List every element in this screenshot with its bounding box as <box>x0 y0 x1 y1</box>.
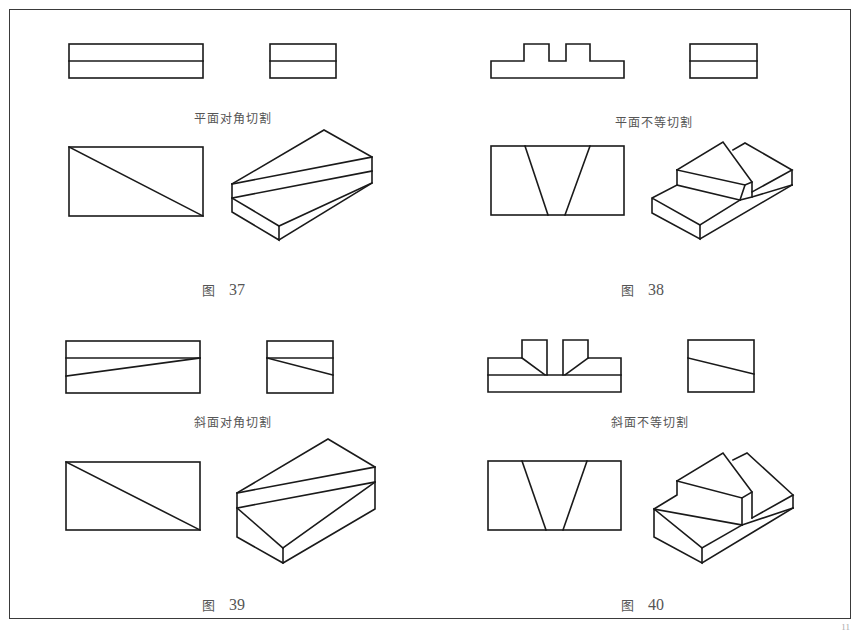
iso-slope-edge <box>237 508 283 548</box>
iso-left-step <box>677 453 752 518</box>
figure-40 <box>488 340 793 563</box>
fig38-section-label: 平面不等切割 <box>615 113 693 130</box>
iso-cut-edge-lower <box>237 482 375 508</box>
fig39-front-view <box>66 341 200 393</box>
slope-line <box>66 358 200 376</box>
iso-cut-edge-upper <box>232 157 372 184</box>
fig37-top-view <box>69 147 203 216</box>
slope-line <box>267 358 333 375</box>
caption-number: 40 <box>648 596 664 613</box>
iso-upper-block-top-edge <box>677 170 752 185</box>
slope-line-right <box>565 358 588 375</box>
caption-prefix: 图 <box>621 283 634 298</box>
iso-base-top-edge <box>740 185 792 200</box>
iso-lower-top-edge <box>700 200 740 225</box>
top-view-outline <box>491 146 624 215</box>
diagonal-cut-line <box>69 147 203 216</box>
iso-outline-top <box>232 130 372 226</box>
iso-lower-slope-edge <box>654 509 742 525</box>
caption-prefix: 图 <box>202 598 215 613</box>
iso-step-vertical <box>740 185 745 200</box>
figure-38 <box>491 44 792 239</box>
fig40-caption: 图40 <box>621 595 664 614</box>
fig39-side-view <box>267 341 333 393</box>
fig38-caption: 图38 <box>621 280 664 299</box>
iso-outline <box>237 439 375 563</box>
fig38-top-view <box>491 146 624 215</box>
fig37-section-label: 平面对角切割 <box>194 109 272 126</box>
diagonal-cut-line <box>66 462 200 530</box>
iso-lower-block <box>654 481 702 563</box>
fig37-side-view <box>270 44 336 78</box>
iso-upper-block-edge <box>677 481 752 498</box>
figure-39 <box>66 341 375 563</box>
slope-line <box>688 358 754 374</box>
fig37-caption: 图37 <box>202 280 245 299</box>
page-number: 11 <box>841 622 850 632</box>
front-view-outline <box>491 44 624 78</box>
iso-bottom-edge <box>279 183 372 240</box>
iso-bottom-edge <box>702 508 793 563</box>
fig39-isometric-view <box>237 439 375 563</box>
technical-drawings <box>0 0 864 632</box>
iso-cut-edge-lower <box>232 171 372 198</box>
fig40-front-view <box>488 340 621 392</box>
cut-line-right <box>563 461 587 530</box>
caption-number: 39 <box>229 596 245 613</box>
fig37-isometric-view <box>232 130 372 240</box>
cut-line-right <box>565 146 590 215</box>
caption-prefix: 图 <box>202 283 215 298</box>
fig40-top-view <box>488 461 621 530</box>
cut-line-left <box>525 146 548 215</box>
top-view-outline <box>488 461 621 530</box>
iso-slope-edge-right <box>283 482 375 548</box>
cut-line-left <box>522 461 546 530</box>
fig38-front-view <box>491 44 624 78</box>
fig40-side-view <box>688 340 754 392</box>
iso-upper-block-front <box>677 170 740 200</box>
fig39-top-view <box>66 462 200 530</box>
slope-line-left <box>522 358 545 375</box>
caption-number: 38 <box>648 281 664 298</box>
iso-lower-block <box>652 185 700 239</box>
fig37-front-view <box>69 44 203 78</box>
fig40-isometric-view <box>654 453 793 563</box>
caption-number: 37 <box>229 281 245 298</box>
fig40-section-label: 斜面不等切割 <box>611 413 689 430</box>
fig38-side-view <box>690 44 757 78</box>
front-view-outline <box>488 340 621 392</box>
iso-front-top-edge <box>702 525 742 548</box>
fig38-isometric-view <box>652 142 792 239</box>
caption-prefix: 图 <box>621 598 634 613</box>
iso-left-step <box>677 142 752 197</box>
fig39-section-label: 斜面对角切割 <box>194 413 272 430</box>
figure-37 <box>69 44 372 240</box>
fig39-caption: 图39 <box>202 595 245 614</box>
iso-base-top-edge <box>742 508 793 525</box>
